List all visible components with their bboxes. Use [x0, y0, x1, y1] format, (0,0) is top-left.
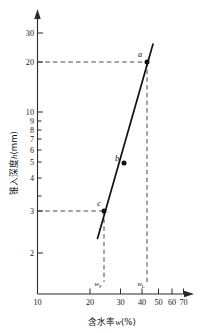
- y-tick-label: 4: [30, 174, 34, 183]
- y-tick-label: 2: [30, 249, 34, 258]
- y-tick-label: 6: [30, 146, 34, 155]
- y-tick-label: 9: [30, 117, 34, 126]
- wp-subscript: P: [99, 284, 102, 289]
- y-tick-labels: 30 20 10 9 8 7 6 5 4 3 2: [26, 29, 34, 258]
- x-axis-label-cn: 含水率: [88, 316, 115, 327]
- y-axis-label-unit: (mm): [9, 131, 19, 154]
- data-point-label-b: b: [115, 154, 119, 163]
- chart-figure: 30 20 10 9 8 7 6 5 4 3 2 10 20 30 40 50 …: [0, 0, 216, 333]
- data-point-label-a: a: [138, 50, 142, 59]
- x-tick-marks: [38, 289, 184, 295]
- wl-label: wL: [137, 280, 145, 289]
- y-tick-label: 8: [30, 126, 34, 135]
- limit-annotations: wP wL: [94, 280, 145, 289]
- x-tick-label: 10: [33, 298, 41, 307]
- x-axis-label-unit: (%): [121, 317, 136, 327]
- wp-label: wP: [94, 280, 102, 289]
- y-tick-marks: [38, 33, 44, 253]
- data-point-a: [145, 60, 150, 65]
- y-axis-label: 锥入深度h(mm): [8, 131, 19, 195]
- y-tick-label: 30: [26, 29, 34, 38]
- x-tick-labels: 10 20 30 40 50 60 70: [33, 298, 187, 307]
- data-point-c: [102, 209, 107, 214]
- y-tick-label: 20: [26, 58, 34, 67]
- data-point-label-c: c: [97, 199, 101, 208]
- guide-lines: [38, 62, 148, 282]
- x-axis-arrow: [184, 291, 194, 297]
- x-tick-label: 60: [168, 298, 176, 307]
- y-axis-label-cn: 锥入深度: [8, 159, 19, 195]
- wl-subscript: L: [142, 284, 145, 289]
- x-axis-label: 含水率w(%): [88, 316, 136, 327]
- y-axis-arrow: [34, 9, 40, 19]
- y-tick-label: 5: [30, 158, 34, 167]
- x-tick-label: 50: [154, 298, 162, 307]
- x-tick-label: 70: [179, 298, 187, 307]
- x-tick-label: 30: [116, 298, 124, 307]
- y-tick-label: 3: [30, 207, 34, 216]
- y-tick-label: 10: [26, 108, 34, 117]
- data-point-b: [122, 161, 127, 166]
- y-tick-label: 7: [30, 135, 34, 144]
- penetration-water-content-plot: 30 20 10 9 8 7 6 5 4 3 2 10 20 30 40 50 …: [0, 0, 216, 333]
- data-point-labels: a b c: [97, 50, 142, 208]
- x-tick-label: 40: [138, 298, 146, 307]
- x-tick-label: 20: [86, 298, 94, 307]
